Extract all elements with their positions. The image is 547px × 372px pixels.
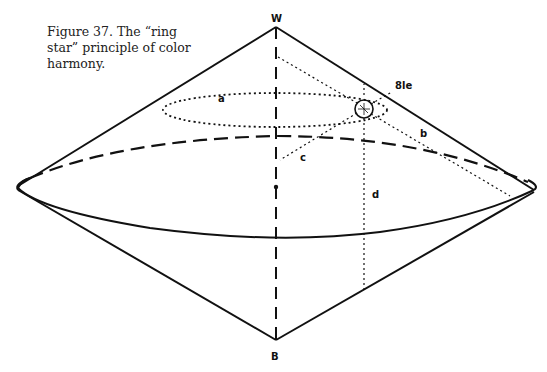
label-white: W <box>271 13 282 24</box>
label-c: c <box>300 152 306 163</box>
ring-star-glyph <box>358 103 370 115</box>
back-equator <box>30 136 528 182</box>
label-black: B <box>271 351 279 362</box>
label-hue: 8le <box>395 80 412 91</box>
label-b: b <box>420 128 427 139</box>
label-d: d <box>372 189 379 200</box>
construction-lines <box>278 57 510 290</box>
axis-midpoint <box>274 185 278 189</box>
label-a: a <box>218 93 225 104</box>
color-solid-diagram: W B 8le a b c d <box>0 0 547 372</box>
